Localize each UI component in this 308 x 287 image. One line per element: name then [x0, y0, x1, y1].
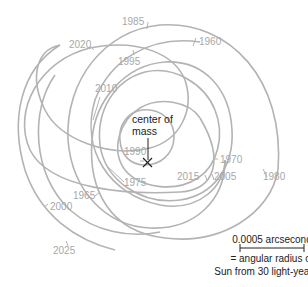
scale-desc-line1: = angular radius of: [230, 253, 308, 264]
scale-value-label: 0.0005 arcsecond: [232, 234, 308, 245]
year-label-1990: 1990: [124, 146, 147, 157]
year-label-1975: 1975: [124, 177, 147, 188]
year-label-2025: 2025: [53, 245, 76, 256]
year-label-2005: 2005: [214, 171, 237, 182]
scale-bar: 0.0005 arcsecond = angular radius of Sun…: [214, 234, 308, 277]
center-label-line2: mass: [132, 125, 157, 137]
center-label-line1: center of: [132, 113, 173, 125]
year-label-1970: 1970: [220, 154, 243, 165]
year-labels: 1960 1965 1970 1975 1980 1985 1990 1995 …: [44, 16, 286, 256]
year-label-2000: 2000: [50, 201, 73, 212]
sun-path: [18, 25, 278, 250]
tick-2015: [205, 175, 207, 180]
year-label-2020: 2020: [69, 39, 92, 50]
tick-1985: [147, 22, 148, 29]
year-label-2010: 2010: [95, 83, 118, 94]
year-label-2015: 2015: [177, 171, 200, 182]
year-label-1995: 1995: [118, 56, 141, 67]
scale-desc-line2: Sun from 30 light-years: [214, 266, 308, 277]
tick-1975: [107, 166, 124, 182]
year-label-1985: 1985: [122, 16, 145, 27]
year-label-1965: 1965: [73, 190, 96, 201]
barycenter-diagram: 1960 1965 1970 1975 1980 1985 1990 1995 …: [0, 0, 308, 287]
year-label-1980: 1980: [263, 171, 286, 182]
year-label-1960: 1960: [199, 36, 222, 47]
